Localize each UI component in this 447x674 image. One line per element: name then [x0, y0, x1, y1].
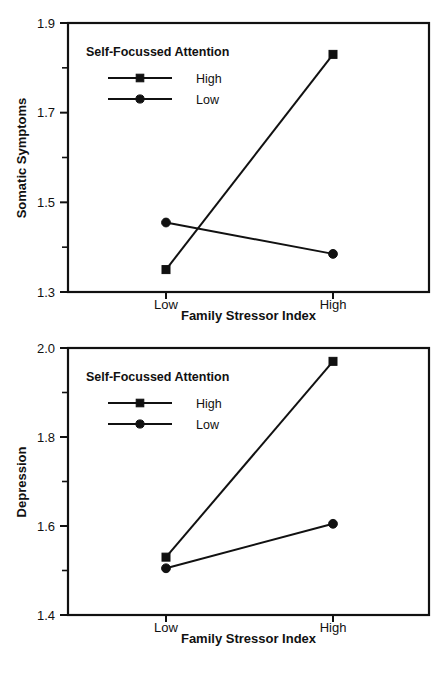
- legend: Self-Focussed AttentionHighLow: [86, 45, 229, 107]
- legend-label-high: High: [196, 397, 222, 411]
- data-point-low: [329, 519, 338, 528]
- somatic-symptoms-line-chart: 1.31.51.71.9LowHighFamily Stressor Index…: [0, 0, 447, 340]
- data-point-high: [162, 553, 170, 561]
- x-axis-tick-label: High: [320, 297, 347, 312]
- x-axis-tick-label: High: [320, 620, 347, 635]
- y-axis-title: Depression: [14, 447, 29, 518]
- depression-line-chart: 1.41.61.82.0LowHighFamily Stressor Index…: [0, 340, 447, 674]
- y-axis-tick-label: 1.5: [37, 195, 55, 210]
- y-axis-tick-label: 1.8: [37, 430, 55, 445]
- y-axis-tick-label: 1.7: [37, 105, 55, 120]
- series-line-low: [166, 524, 333, 569]
- data-point-low: [162, 564, 171, 573]
- legend-marker-square: [136, 74, 144, 82]
- y-axis-title: Somatic Symptoms: [14, 98, 29, 219]
- legend-label-low: Low: [196, 93, 220, 107]
- legend-label-low: Low: [196, 418, 220, 432]
- legend-title: Self-Focussed Attention: [86, 370, 229, 384]
- y-axis-tick-label: 1.3: [37, 285, 55, 300]
- plot-frame: [68, 23, 429, 292]
- legend-marker-circle: [136, 420, 144, 428]
- data-point-low: [162, 218, 171, 227]
- legend-marker-circle: [136, 95, 144, 103]
- plot-frame: [68, 348, 429, 615]
- y-axis-tick-label: 1.6: [37, 519, 55, 534]
- data-point-high: [329, 357, 337, 365]
- y-axis-tick-label: 2.0: [37, 341, 55, 356]
- data-point-high: [162, 266, 170, 274]
- y-axis-tick-label: 1.9: [37, 16, 55, 31]
- legend: Self-Focussed AttentionHighLow: [86, 370, 229, 432]
- legend-title: Self-Focussed Attention: [86, 45, 229, 59]
- x-axis-title: Family Stressor Index: [181, 631, 317, 646]
- x-axis-tick-label: Low: [154, 620, 178, 635]
- chart-panel-somatic-symptoms: 1.31.51.71.9LowHighFamily Stressor Index…: [0, 0, 447, 340]
- x-axis-title: Family Stressor Index: [181, 308, 317, 323]
- y-axis-tick-label: 1.4: [37, 608, 55, 623]
- data-point-high: [329, 50, 337, 58]
- chart-panel-depression: 1.41.61.82.0LowHighFamily Stressor Index…: [0, 340, 447, 674]
- x-axis-tick-label: Low: [154, 297, 178, 312]
- data-point-low: [329, 249, 338, 258]
- series-line-high: [166, 361, 333, 557]
- legend-label-high: High: [196, 72, 222, 86]
- legend-marker-square: [136, 399, 144, 407]
